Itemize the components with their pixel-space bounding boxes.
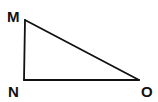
triangle-edges (24, 20, 139, 80)
triangle-canvas: M N O (0, 0, 158, 102)
vertex-label-o: O (141, 83, 153, 100)
edge-mo (25, 20, 139, 80)
triangle-diagram: M N O (0, 0, 158, 102)
vertex-label-n: N (8, 83, 19, 100)
edge-mn (24, 20, 25, 80)
vertex-label-m: M (7, 8, 20, 25)
